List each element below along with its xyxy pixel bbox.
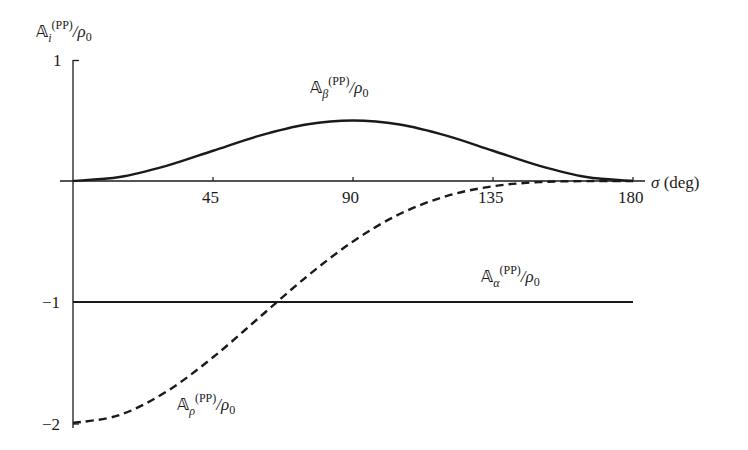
y-tick-label-minus2: −2 [42,416,60,433]
alpha-label-sup: (PP) [499,263,520,277]
series-beta-curve [73,121,633,182]
y-label-sup: (PP) [52,18,73,32]
alpha-series-label: 𝔸α(PP)/ρ0 [481,264,540,289]
rho-label-main: 𝔸 [177,395,189,414]
y-tick-label-1: 1 [53,52,62,69]
beta-label-sup: (PP) [328,74,349,88]
beta-label-rest: /ρ [350,78,363,97]
rho-series-label: 𝔸ρ(PP)/ρ0 [177,392,235,417]
y-tick-label-minus1: −1 [42,294,60,311]
y-label-sub: i [48,31,51,45]
alpha-label-sub: α [493,276,499,290]
x-tick-label-90: 90 [342,189,359,206]
y-axis-label: 𝔸i(PP)/ρ0 [36,19,92,44]
x-label-unit: (deg) [659,173,699,192]
y-label-rest-sub: 0 [86,30,92,44]
rho-label-rest-sub: 0 [229,403,235,417]
x-axis-label: σ (deg) [651,174,700,191]
alpha-label-rest-sub: 0 [534,275,540,289]
x-tick-label-180: 180 [618,189,644,206]
x-tick-label-135: 135 [478,189,504,206]
beta-label-rest-sub: 0 [362,86,368,100]
alpha-label-rest: /ρ [521,267,534,286]
beta-series-label: 𝔸β(PP)/ρ0 [310,75,368,100]
rho-label-sub: ρ [189,404,195,418]
plot-area [0,0,748,450]
beta-label-main: 𝔸 [310,78,322,97]
rho-label-rest: /ρ [216,395,229,414]
rho-label-sup: (PP) [195,391,216,405]
beta-label-sub: β [322,87,328,101]
y-label-rest: /ρ [73,22,86,41]
y-label-main: 𝔸 [36,22,48,41]
x-tick-label-45: 45 [202,189,219,206]
alpha-label-main: 𝔸 [481,267,493,286]
